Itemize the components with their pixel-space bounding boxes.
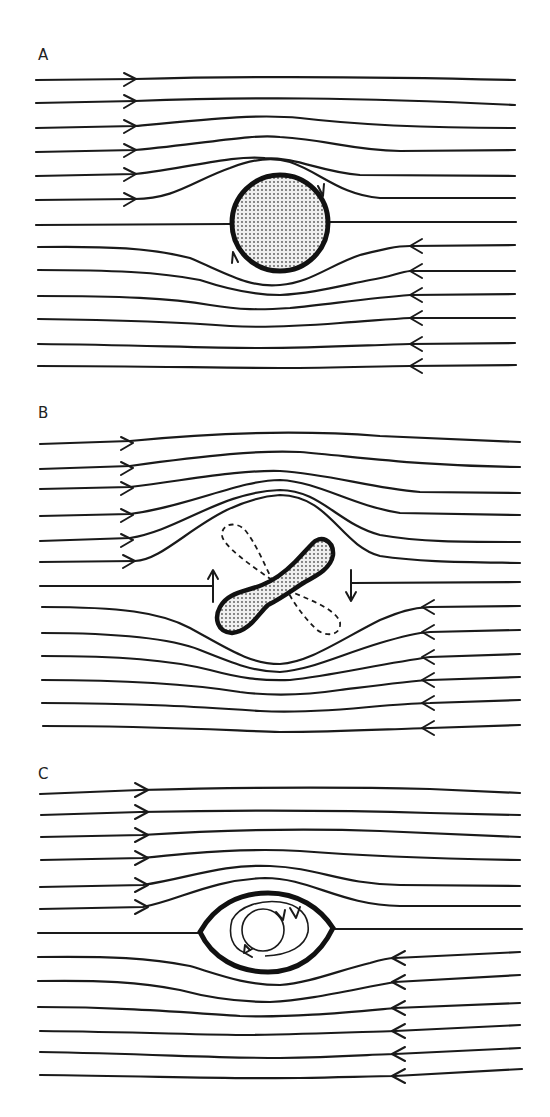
- arrows-left-b: [422, 600, 434, 735]
- arrows-right-b: [121, 437, 135, 568]
- dumbbell-body: [217, 539, 333, 633]
- shear-flow-diagram: [0, 0, 550, 1117]
- arrows-left-c: [392, 951, 405, 1083]
- panel-a: [36, 73, 516, 373]
- arrows-right-c: [135, 783, 148, 914]
- arrows-left-a: [410, 239, 422, 373]
- drop-body: [200, 893, 333, 972]
- arrows-right-a: [124, 73, 136, 206]
- dashed-lobe-upper-left: [222, 525, 272, 580]
- panel-c: [38, 783, 522, 1083]
- dashed-lobe-lower-right: [287, 590, 340, 634]
- panel-b: [40, 433, 520, 735]
- sphere-body: [232, 175, 328, 271]
- rotation-arrow-icon: [232, 252, 238, 263]
